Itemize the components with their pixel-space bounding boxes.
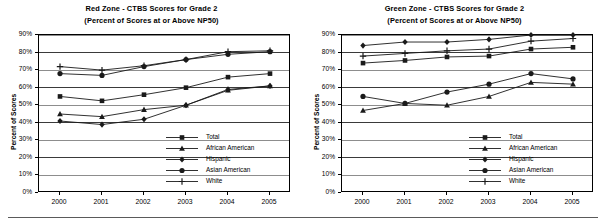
y-tick-label: 10% (303, 170, 335, 177)
x-tick-label: 2001 (81, 198, 121, 205)
y-tick-label: 0% (0, 188, 32, 195)
x-tick-mark (572, 192, 573, 195)
y-tick-mark (338, 122, 341, 123)
x-tick-mark (488, 192, 489, 195)
x-tick-mark (269, 192, 270, 195)
y-tick-label: 30% (303, 135, 335, 142)
x-tick-label: 2005 (249, 198, 289, 205)
y-tick-mark (35, 87, 38, 88)
square-marker (164, 132, 202, 143)
y-tick-label: 80% (303, 48, 335, 55)
plus-marker (164, 176, 202, 187)
y-tick-label: 20% (0, 153, 32, 160)
y-tick-mark (338, 34, 341, 35)
chart-panel-green-zone: Green Zone - CTBS Scores for Grade 2 (Pe… (303, 0, 606, 223)
y-tick-label: 20% (303, 153, 335, 160)
x-tick-mark (143, 192, 144, 195)
y-tick-mark (35, 139, 38, 140)
y-tick-label: 70% (0, 65, 32, 72)
legend-label: Total (509, 133, 523, 140)
y-tick-label: 40% (0, 118, 32, 125)
y-tick-label: 90% (303, 30, 335, 37)
chart-subtitle-red: (Percent of Scores at or Above NP50) (0, 16, 303, 25)
chart-panel-red-zone: Red Zone - CTBS Scores for Grade 2 (Perc… (0, 0, 303, 223)
circle-marker (467, 165, 505, 176)
chart-subtitle-green: (Percent of Scores at or Above NP50) (303, 16, 606, 25)
y-tick-label: 50% (303, 100, 335, 107)
diamond-marker (164, 154, 202, 165)
chart-title-green: Green Zone - CTBS Scores for Grade 2 (303, 4, 606, 13)
x-tick-mark (362, 192, 363, 195)
series-hispanic (57, 83, 272, 128)
square-marker (467, 132, 505, 143)
series-total (58, 71, 273, 103)
x-tick-label: 2003 (468, 198, 508, 205)
figure-sheet: Red Zone - CTBS Scores for Grade 2 (Perc… (0, 0, 606, 223)
x-tick-mark (185, 192, 186, 195)
x-tick-label: 2004 (510, 198, 550, 205)
legend-label: White (509, 177, 525, 184)
legend-label: Total (206, 133, 220, 140)
triangle-marker (467, 143, 505, 154)
y-tick-label: 50% (0, 100, 32, 107)
legend-label: African American (509, 144, 557, 151)
x-tick-label: 2000 (39, 198, 79, 205)
y-tick-label: 30% (0, 135, 32, 142)
y-tick-mark (338, 157, 341, 158)
x-tick-label: 2002 (426, 198, 466, 205)
y-tick-label: 60% (0, 83, 32, 90)
x-tick-label: 2000 (342, 198, 382, 205)
y-tick-mark (35, 34, 38, 35)
y-tick-mark (35, 69, 38, 70)
y-tick-mark (338, 69, 341, 70)
y-tick-mark (35, 174, 38, 175)
series-white (57, 48, 273, 74)
y-tick-mark (35, 192, 38, 193)
y-tick-label: 60% (303, 83, 335, 90)
y-tick-mark (338, 174, 341, 175)
x-tick-label: 2003 (165, 198, 205, 205)
diamond-marker (467, 154, 505, 165)
legend-label: White (206, 177, 222, 184)
legend-label: Hispanic (509, 155, 534, 162)
y-tick-label: 0% (303, 188, 335, 195)
plus-marker (467, 176, 505, 187)
y-tick-mark (35, 157, 38, 158)
y-tick-label: 10% (0, 170, 32, 177)
circle-marker (164, 165, 202, 176)
y-tick-mark (338, 87, 341, 88)
y-tick-label: 70% (303, 65, 335, 72)
footer-rule (8, 217, 598, 218)
x-tick-mark (404, 192, 405, 195)
chart-title-red: Red Zone - CTBS Scores for Grade 2 (0, 4, 303, 13)
y-tick-mark (35, 104, 38, 105)
y-tick-label: 80% (0, 48, 32, 55)
y-tick-mark (338, 52, 341, 53)
x-tick-mark (101, 192, 102, 195)
legend-label: Asian American (509, 166, 553, 173)
series-asian-american (57, 49, 272, 78)
series-african-american (360, 79, 576, 112)
y-tick-mark (35, 52, 38, 53)
y-tick-label: 40% (303, 118, 335, 125)
panel-divider (303, 6, 304, 211)
x-tick-label: 2004 (207, 198, 247, 205)
y-tick-mark (338, 192, 341, 193)
triangle-marker (164, 143, 202, 154)
y-tick-mark (338, 104, 341, 105)
x-tick-mark (530, 192, 531, 195)
x-tick-mark (227, 192, 228, 195)
x-tick-label: 2002 (123, 198, 163, 205)
series-white (360, 35, 576, 59)
x-tick-mark (59, 192, 60, 195)
x-tick-label: 2005 (552, 198, 592, 205)
legend-label: African American (206, 144, 254, 151)
y-tick-label: 90% (0, 30, 32, 37)
x-tick-label: 2001 (384, 198, 424, 205)
x-tick-mark (446, 192, 447, 195)
series-total (361, 45, 576, 65)
legend-label: Hispanic (206, 155, 231, 162)
legend-label: Asian American (206, 166, 250, 173)
y-tick-mark (35, 122, 38, 123)
y-tick-mark (338, 139, 341, 140)
